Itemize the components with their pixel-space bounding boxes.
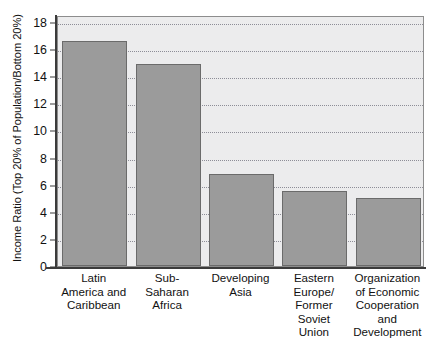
- y-tick-label: 10: [33, 124, 47, 138]
- bar: [282, 191, 347, 266]
- x-tick-label-line: Sub-: [130, 271, 203, 285]
- x-tick-label-line: Organization: [351, 271, 424, 285]
- bar-chart-figure: Income Ratio (Top 20% of Population/Bott…: [0, 0, 440, 349]
- y-axis-title-container: Income Ratio (Top 20% of Population/Bott…: [0, 0, 22, 285]
- y-tick-label: 6: [40, 179, 47, 193]
- y-tick-label: 12: [33, 97, 47, 111]
- x-axis-tick-labels: LatinAmerica andCaribbeanSub-SaharanAfri…: [57, 271, 424, 349]
- y-tick-label: 18: [33, 16, 47, 30]
- x-tick-label-line: Caribbean: [57, 298, 130, 312]
- x-tick-label-line: America and: [57, 285, 130, 299]
- y-axis-tick-labels: 024681012141618: [22, 0, 50, 285]
- x-tick-label-line: Asia: [204, 285, 277, 299]
- x-tick-label-line: Latin: [57, 271, 130, 285]
- x-tick-label-line: Cooperation: [351, 298, 424, 312]
- x-tick-label-line: Soviet: [277, 312, 350, 326]
- x-tick-label-line: Former: [277, 298, 350, 312]
- y-tick-label: 14: [33, 70, 47, 84]
- x-tick-label-line: Development: [351, 325, 424, 339]
- x-tick-label: Organizationof EconomicCooperationandDev…: [351, 271, 424, 339]
- bar-series: [58, 17, 423, 266]
- x-tick-label: Sub-SaharanAfrica: [130, 271, 203, 312]
- x-tick-label-line: Developing: [204, 271, 277, 285]
- bar: [356, 198, 421, 266]
- plot-area: [57, 16, 424, 267]
- x-tick-label-line: Europe/: [277, 285, 350, 299]
- x-tick-label-line: and: [351, 312, 424, 326]
- x-tick-label-line: Eastern: [277, 271, 350, 285]
- x-tick-label: LatinAmerica andCaribbean: [57, 271, 130, 312]
- bar: [209, 174, 274, 266]
- x-tick-label: EasternEurope/FormerSovietUnion: [277, 271, 350, 339]
- x-tick-label-line: Saharan: [130, 285, 203, 299]
- bar: [136, 64, 201, 266]
- x-tick-label-line: Union: [277, 325, 350, 339]
- y-tick-label: 16: [33, 43, 47, 57]
- y-tick-label: 2: [40, 233, 47, 247]
- x-tick-label: DevelopingAsia: [204, 271, 277, 298]
- y-tick-label: 4: [40, 206, 47, 220]
- x-tick-label-line: of Economic: [351, 285, 424, 299]
- x-axis-line: [46, 267, 426, 269]
- bar: [62, 41, 127, 266]
- y-tick-label: 8: [40, 152, 47, 166]
- x-tick-label-line: Africa: [130, 298, 203, 312]
